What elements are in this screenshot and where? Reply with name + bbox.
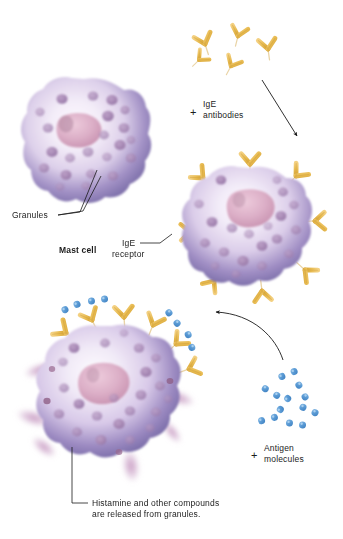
plus-sign-antigen: + (251, 450, 257, 461)
free-antibody-cluster (188, 25, 278, 78)
free-antigen (257, 413, 278, 425)
exiting-granule (167, 378, 174, 384)
bound-antigen (184, 330, 196, 351)
histamine-leader (72, 447, 88, 503)
free-antigen (294, 380, 310, 401)
antibodies-to-cell-arrow (262, 80, 297, 136)
ige-receptor-leader (140, 234, 172, 243)
mast-cell-resting (21, 77, 151, 203)
granules-label: Granules (12, 210, 48, 221)
histamine-plume (120, 448, 143, 484)
mast-cell-label: Mast cell (59, 245, 96, 256)
ige-receptor (252, 279, 271, 301)
ige-receptor-label-line2: receptor (112, 249, 145, 260)
antigen-label-line1: Antigen (264, 443, 294, 454)
exiting-granule (116, 449, 123, 455)
bound-antigen (60, 300, 81, 315)
free-antigen (298, 403, 319, 418)
free-antibody (220, 55, 242, 78)
mast-cell-degranulating (14, 295, 201, 484)
free-antibody (194, 32, 216, 57)
bound-antigen (164, 308, 182, 328)
mast-cell-allergy-diagram: Granules Mast cell + IgE antibodies IgE … (0, 0, 343, 539)
ige-antibodies-label-line1: IgE (203, 99, 216, 110)
antigen-label-line2: molecules (264, 454, 304, 465)
histamine-caption-line2: are released from granules. (92, 509, 201, 520)
exiting-granule (49, 366, 55, 372)
bound-antigen (88, 295, 109, 305)
mast-cell-sensitized (181, 154, 325, 302)
exiting-granule (43, 398, 50, 404)
plus-sign-antibodies: + (190, 107, 196, 118)
free-antigen (277, 367, 298, 381)
cell-nucleus-resting (56, 113, 101, 148)
antigens-to-cell-arrow (216, 312, 283, 360)
ige-antibodies-label-line2: antibodies (203, 110, 243, 121)
histamine-caption-line1: Histamine and other compounds (92, 498, 219, 509)
ige-receptor-label-line1: IgE (122, 238, 135, 249)
free-antibody (258, 38, 278, 61)
free-antigen (286, 419, 307, 429)
free-antigen-cluster (257, 367, 319, 429)
free-antigen (261, 384, 282, 400)
free-antibody (228, 25, 248, 48)
